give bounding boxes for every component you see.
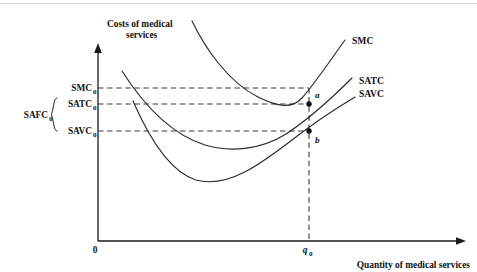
point-b-dot [307, 129, 312, 134]
y-label-satc0-text: SATC [68, 99, 92, 109]
x-axis-title: Quantity of medical services [357, 260, 471, 270]
satc-curve-label: SATC [359, 75, 384, 86]
point-a-dot [307, 102, 312, 107]
x-tick-label-q0-subscript: 0 [309, 250, 313, 258]
point-a-label: a [315, 90, 320, 100]
figure-background [0, 0, 477, 272]
y-axis-title-line1: Costs of medical [107, 19, 173, 29]
y-label-savc0-subscript: 0 [93, 131, 97, 139]
y-label-smc0-text: SMC [71, 83, 92, 93]
point-b-label: b [315, 135, 320, 145]
safc-label-text: SAFC [24, 110, 48, 120]
smc-curve-label: SMC [352, 35, 373, 46]
origin-label: 0 [93, 245, 98, 255]
y-label-savc0-text: SAVC [68, 126, 92, 136]
x-tick-label-q0: q [303, 245, 308, 255]
y-axis-title-line2: services [126, 30, 158, 40]
savc-curve-label: SAVC [359, 88, 384, 99]
y-label-satc0-subscript: 0 [93, 104, 97, 112]
safc-label-subscript: 0 [49, 115, 53, 123]
cost-curves-figure: a b SMC 0 SATC 0 SAVC 0 SAFC 0 [0, 0, 477, 272]
y-label-smc0-subscript: 0 [93, 88, 97, 96]
